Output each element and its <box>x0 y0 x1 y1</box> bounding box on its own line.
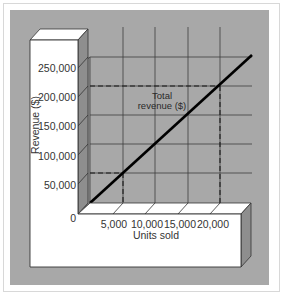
y-axis-block-side <box>78 29 88 214</box>
total-revenue-line <box>90 55 252 203</box>
x-axis-label: Units sold <box>133 229 179 241</box>
x-tick-20000: 20,000 <box>197 218 229 230</box>
y-tick-50000: 50,000 <box>44 179 76 191</box>
grid-lines <box>90 27 252 203</box>
y-tick-150000: 150,000 <box>38 120 76 132</box>
y-tick-250000: 250,000 <box>38 62 76 74</box>
y-tick-100000: 100,000 <box>38 150 76 162</box>
x-axis-block-side <box>241 203 251 267</box>
annotation-revenue: revenue ($) <box>138 100 187 111</box>
y-axis-label: Revenue ($) <box>29 96 41 154</box>
revenue-chart: 250,000 200,000 150,000 100,000 50,000 0… <box>0 0 283 296</box>
y-tick-0: 0 <box>70 212 76 224</box>
x-axis-block-top <box>78 203 251 214</box>
y-tick-200000: 200,000 <box>38 91 76 103</box>
x-tick-5000: 5,000 <box>101 218 127 230</box>
